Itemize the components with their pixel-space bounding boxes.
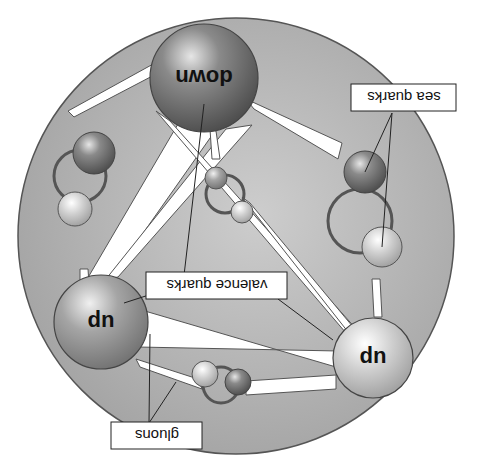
callout-gluons: gluons — [111, 422, 202, 449]
valence-quark-up-left: up — [54, 275, 148, 369]
quark-label: down — [175, 65, 232, 90]
rotated-scene: down up up sea quarks — [18, 18, 456, 454]
sea-quark — [205, 167, 227, 189]
label-text: sea quarks — [367, 89, 440, 106]
proton-diagram: down up up sea quarks — [0, 0, 478, 459]
label-text: valence quarks — [167, 277, 268, 294]
diagram-canvas: down up up sea quarks — [0, 0, 478, 459]
sea-antiquark — [231, 201, 253, 223]
callout-sea-quarks: sea quarks — [351, 84, 456, 111]
valence-quark-down: down — [150, 24, 258, 132]
sea-quark — [192, 361, 218, 387]
sea-antiquark — [58, 192, 92, 226]
gluon-tube — [372, 279, 382, 317]
valence-quark-up-right: up — [333, 318, 413, 398]
label-text: gluons — [135, 427, 179, 444]
quark-label: up — [360, 346, 387, 371]
sea-quark — [73, 132, 115, 174]
quark-label: up — [88, 310, 115, 335]
sea-antiquark — [225, 369, 251, 395]
callout-valence-quarks: valence quarks — [146, 272, 287, 299]
